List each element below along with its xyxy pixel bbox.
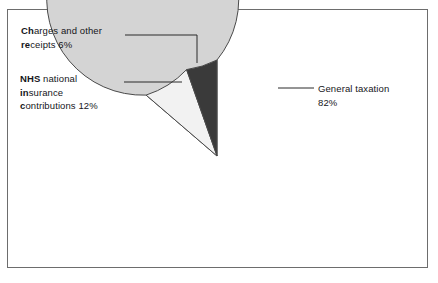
label-text-bold: in bbox=[20, 87, 29, 98]
label-text-bold: NHS bbox=[20, 73, 40, 84]
label-text-regular: ceipts 6% bbox=[30, 39, 72, 50]
label-text-regular: national bbox=[40, 73, 77, 84]
label-text-regular: ontributions 12% bbox=[25, 100, 97, 111]
pie-label-general-taxation-line1: General taxation bbox=[318, 82, 389, 96]
pie-label-charges-receipts: Charges and other receipts 6% bbox=[21, 24, 102, 51]
label-text-bold: re bbox=[21, 39, 30, 50]
label-text-regular: arges and other bbox=[34, 25, 102, 36]
pie-label-nhs-contributions-line1: NHS national bbox=[20, 72, 98, 86]
label-text-bold: Ch bbox=[21, 25, 34, 36]
pie-label-nhs-contributions-line2: insurance bbox=[20, 86, 98, 100]
pie-label-general-taxation: General taxation 82% bbox=[318, 82, 389, 109]
pie-label-nhs-contributions: NHS national insurance contributions 12% bbox=[20, 72, 98, 113]
pie-label-charges-receipts-line1: Charges and other bbox=[21, 24, 102, 38]
pie-label-general-taxation-line2: 82% bbox=[318, 96, 389, 110]
label-text-regular: surance bbox=[29, 87, 64, 98]
pie-chart-figure: Charges and other receipts 6% NHS nation… bbox=[0, 0, 438, 283]
pie-label-charges-receipts-line2: receipts 6% bbox=[21, 38, 102, 52]
pie-label-nhs-contributions-line3: contributions 12% bbox=[20, 99, 98, 113]
